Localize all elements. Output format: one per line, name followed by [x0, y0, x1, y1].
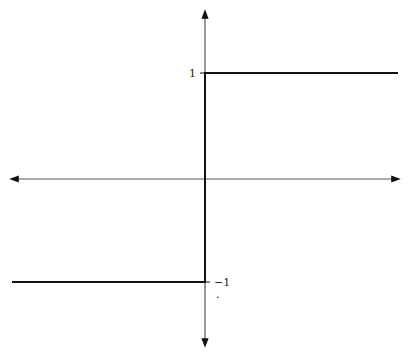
step-function-chart: 1 −1 . — [0, 0, 410, 357]
ytick-label-1: 1 — [189, 67, 196, 80]
stray-dot: . — [216, 288, 220, 301]
step-function-line — [12, 73, 398, 282]
